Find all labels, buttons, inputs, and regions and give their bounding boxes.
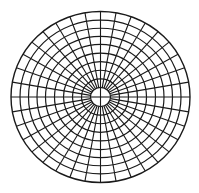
radial-spoke <box>85 13 99 88</box>
polar-grid-diagram <box>0 0 199 193</box>
radial-spoke <box>110 82 188 95</box>
radial-spoke <box>110 99 188 112</box>
radial-spoke <box>102 13 116 88</box>
radial-spoke <box>12 99 90 112</box>
radial-spoke <box>102 106 116 181</box>
radial-spoke <box>12 82 90 95</box>
radial-spoke <box>85 106 99 181</box>
